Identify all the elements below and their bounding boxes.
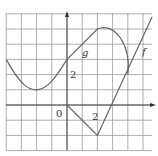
axes [6, 11, 156, 150]
curve-f [67, 17, 152, 136]
graph: 0 2 2 g f [0, 0, 158, 156]
origin-label: 0 [56, 108, 62, 119]
g-label: g [82, 47, 88, 58]
y-tick-label: 2 [70, 69, 76, 80]
x-tick-label: 2 [92, 111, 98, 122]
x-axis-arrow-icon [150, 103, 156, 107]
grid [6, 13, 152, 151]
f-label: f [141, 46, 148, 57]
